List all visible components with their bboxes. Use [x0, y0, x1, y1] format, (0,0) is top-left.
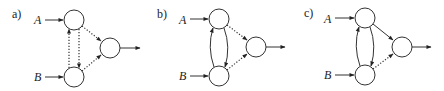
input-label-b: B: [324, 68, 332, 82]
node-a: [209, 9, 229, 29]
edge-a-to-output: [373, 24, 393, 40]
panel-label: c): [304, 6, 313, 20]
edge-a-to-output: [227, 25, 247, 40]
input-label-b: B: [179, 69, 187, 83]
input-label-a: A: [178, 13, 187, 27]
panel-label: a): [12, 7, 21, 21]
edge-a-to-b: [224, 28, 228, 67]
node-b: [64, 67, 84, 87]
edge-a-to-b: [370, 27, 374, 66]
node-output: [392, 37, 412, 57]
node-output: [246, 37, 266, 57]
edge-a-to-output: [82, 26, 101, 41]
input-label-b: B: [34, 70, 42, 84]
node-b: [209, 66, 229, 86]
input-label-a: A: [323, 12, 332, 26]
edge-b-to-output: [227, 54, 247, 70]
panel-b: b) A B: [157, 7, 285, 86]
panel-c: c) A B: [304, 6, 431, 85]
input-label-a: A: [33, 13, 42, 27]
node-b: [355, 65, 375, 85]
panel-label: b): [157, 7, 167, 21]
edge-b-to-a: [356, 27, 360, 66]
network-diagrams: a) A B b) A B c) A B: [0, 0, 444, 91]
node-a: [64, 10, 84, 30]
edge-b-to-a: [210, 28, 214, 67]
edge-b-to-output: [82, 55, 101, 71]
panel-a: a) A B: [12, 7, 140, 87]
edge-b-to-output: [373, 54, 393, 69]
node-output: [100, 38, 120, 58]
node-a: [355, 8, 375, 28]
